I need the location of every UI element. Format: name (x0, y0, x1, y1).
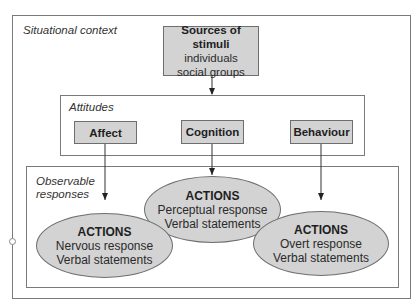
actions-line: Nervous response (56, 239, 153, 253)
sources-title: Sources of stimuli (164, 23, 258, 51)
situational-context-label: Situational context (23, 24, 117, 37)
actions-line: Verbal statements (273, 251, 369, 265)
observable-label-line1: Observable (36, 175, 95, 188)
actions-line: Perceptual response (157, 203, 267, 217)
sources-line: social groups (177, 65, 245, 79)
affect-box: Affect (74, 121, 137, 144)
attitudes-label: Attitudes (69, 101, 114, 114)
margin-marker-icon (9, 238, 16, 245)
actions-title: ACTIONS (78, 225, 132, 239)
actions-title: ACTIONS (186, 189, 240, 203)
sources-line: individuals (184, 51, 238, 65)
cognition-label: Cognition (186, 125, 240, 139)
affect-label: Affect (89, 126, 122, 140)
actions-nervous-ellipse: ACTIONS Nervous response Verbal statemen… (36, 213, 173, 278)
cognition-box: Cognition (181, 120, 244, 144)
actions-line: Overt response (280, 237, 362, 251)
actions-title: ACTIONS (294, 223, 348, 237)
actions-line: Verbal statements (164, 217, 260, 231)
sources-of-stimuli-box: Sources of stimuli individuals social gr… (163, 26, 259, 76)
actions-line: Verbal statements (56, 253, 152, 267)
observable-responses-label: Observable responses (36, 175, 95, 201)
observable-label-line2: responses (36, 188, 95, 201)
actions-overt-ellipse: ACTIONS Overt response Verbal statements (253, 211, 389, 276)
behaviour-label: Behaviour (293, 125, 349, 139)
behaviour-box: Behaviour (290, 120, 353, 144)
